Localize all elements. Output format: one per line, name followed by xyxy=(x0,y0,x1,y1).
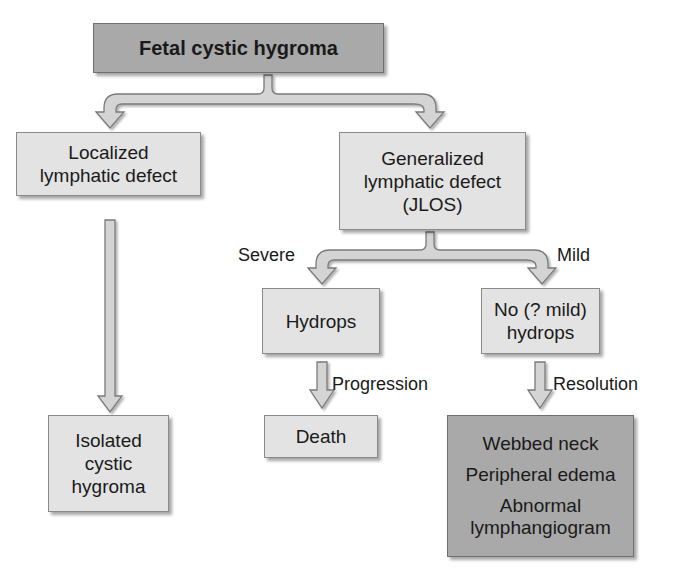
node-line: Localized xyxy=(68,141,148,164)
arrow-mild-to-outcome xyxy=(528,362,552,408)
node-line: hydrops xyxy=(507,321,575,344)
node-line: hygroma xyxy=(72,475,146,498)
resolution-edge-label: Resolution xyxy=(553,374,638,394)
node-line: No (? mild) xyxy=(494,298,587,321)
generalized-defect-node: Generalized lymphatic defect (JLOS) xyxy=(339,132,526,230)
localized-defect-node: Localized lymphatic defect xyxy=(16,132,201,196)
death-node: Death xyxy=(264,415,378,458)
node-label: Hydrops xyxy=(286,310,357,333)
no-hydrops-node: No (? mild) hydrops xyxy=(481,288,600,354)
node-line: lymphatic defect xyxy=(40,164,177,187)
node-line: Isolated xyxy=(75,429,142,452)
node-line: Abnormal xyxy=(500,495,581,517)
split-arrow-severity xyxy=(308,232,556,284)
node-label: Death xyxy=(296,425,347,448)
node-line: lymphatic defect xyxy=(364,170,501,193)
arrow-hydrops-to-death xyxy=(310,362,334,408)
resolution-outcome-node: Webbed neck Peripheral edema Abnormal ly… xyxy=(447,415,634,557)
node-line: cystic xyxy=(85,452,133,475)
severe-edge-label: Severe xyxy=(238,245,295,265)
node-line: Webbed neck xyxy=(483,433,599,455)
split-arrow-top xyxy=(96,75,444,128)
root-label: Fetal cystic hygroma xyxy=(139,37,338,60)
mild-edge-label: Mild xyxy=(557,245,590,265)
node-line: lymphangiogram xyxy=(470,517,610,539)
hydrops-node: Hydrops xyxy=(262,288,380,354)
node-line: (JLOS) xyxy=(402,193,462,216)
node-line: Peripheral edema xyxy=(466,464,616,486)
progression-edge-label: Progression xyxy=(332,374,428,394)
isolated-hygroma-node: Isolated cystic hygroma xyxy=(48,415,169,512)
arrow-localized-to-isolated xyxy=(98,220,122,412)
node-line: Generalized xyxy=(381,147,483,170)
root-node: Fetal cystic hygroma xyxy=(93,23,384,73)
